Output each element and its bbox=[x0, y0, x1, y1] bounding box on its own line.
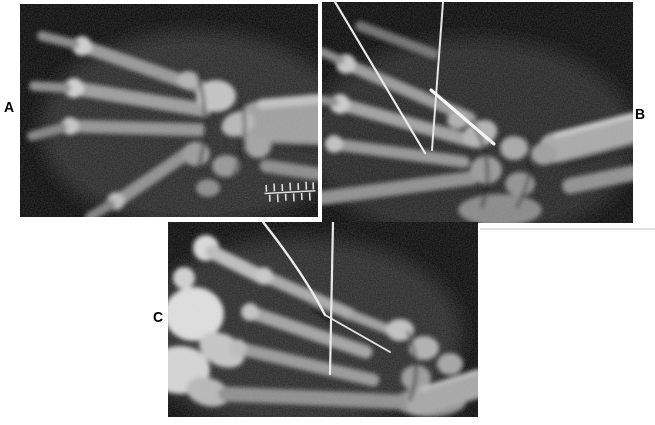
film-grain bbox=[168, 222, 478, 417]
radiograph-figure: A B C bbox=[0, 0, 655, 425]
xray-panel-c-image bbox=[168, 222, 478, 417]
xray-panel-b-image bbox=[322, 2, 633, 223]
scan-artifact-line bbox=[480, 228, 655, 230]
film-grain bbox=[20, 4, 318, 217]
xray-panel-b bbox=[322, 2, 633, 223]
panel-label-b: B bbox=[635, 107, 645, 121]
panel-label-c: C bbox=[153, 310, 163, 324]
xray-panel-a-image bbox=[20, 4, 318, 217]
xray-panel-a bbox=[20, 4, 318, 217]
panel-label-a: A bbox=[4, 100, 14, 114]
film-grain bbox=[322, 2, 633, 223]
xray-panel-c bbox=[168, 222, 478, 417]
